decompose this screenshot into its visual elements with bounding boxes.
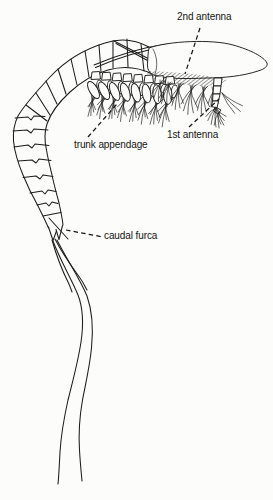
crustacean-drawing (0, 0, 273, 500)
label-caudal-furca: caudal furca (104, 230, 157, 241)
label-first-antenna: 1st antenna (167, 129, 218, 140)
caudal-furca (49, 218, 69, 241)
figure-canvas: 2nd antenna 1st antenna trunk appendage … (0, 0, 273, 500)
label-trunk-appendage: trunk appendage (74, 139, 148, 150)
caudal-filaments (52, 239, 92, 484)
trunk-body (13, 39, 152, 228)
label-second-antenna: 2nd antenna (177, 11, 232, 22)
leader-caudal-furca (66, 230, 103, 237)
